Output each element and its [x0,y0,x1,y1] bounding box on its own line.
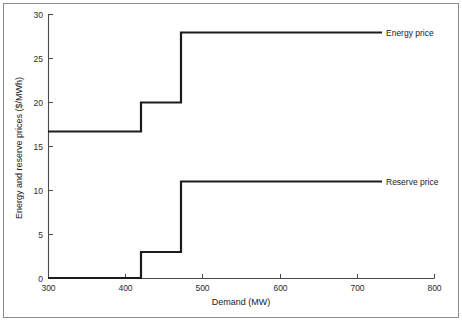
x-tick-label-500: 500 [195,283,209,293]
y-tick-label-0: 0 [38,274,43,284]
y-tick-label-15: 15 [34,142,44,152]
x-tick-label-300: 300 [41,283,55,293]
x-tick-label-800: 800 [427,283,441,293]
y-tick-labels: 0 5 10 15 20 25 30 [34,10,44,284]
x-tick-label-700: 700 [350,283,364,293]
x-tick-label-600: 600 [273,283,287,293]
energy-price-step-line [48,33,382,132]
x-axis-title: Demand (MW) [212,297,271,307]
chart-plot: 0 5 10 15 20 25 30 300 400 500 600 700 8… [0,0,462,321]
energy-price-label: Energy price [386,28,434,38]
x-tick-labels: 300 400 500 600 700 800 [41,283,441,293]
y-tick-label-30: 30 [34,10,44,20]
y-tick-label-25: 25 [34,54,44,64]
y-tick-marks [49,15,54,279]
axis-group [49,14,435,279]
x-tick-label-400: 400 [118,283,132,293]
y-tick-label-20: 20 [34,98,44,108]
y-tick-label-10: 10 [34,186,44,196]
reserve-price-label: Reserve price [386,177,439,187]
y-tick-label-5: 5 [38,230,43,240]
figure-container: 0 5 10 15 20 25 30 300 400 500 600 700 8… [0,0,462,321]
reserve-price-step-line [48,182,382,279]
y-axis-title: Energy and reserve prices ($/MWh) [14,77,24,219]
